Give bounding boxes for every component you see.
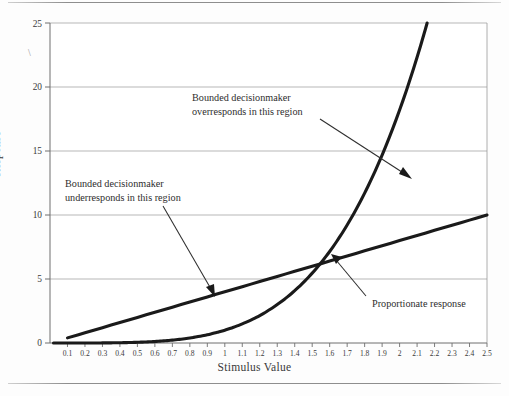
y-axis-ticks	[45, 23, 50, 343]
x-tick-label: 1.7	[342, 349, 352, 358]
annotation-overresponds-line1: Bounded decisionmaker	[192, 92, 291, 103]
x-tick-label: 0.2	[80, 349, 90, 358]
x-tick-label: 1.5	[307, 349, 317, 358]
annotation-underresponds-line2: underresponds in this region	[65, 192, 181, 203]
annotation-underresponds-line1: Bounded decisionmaker	[65, 178, 164, 189]
x-tick-label: 1.9	[377, 349, 387, 358]
y-axis-title: Response	[0, 114, 2, 194]
x-axis-title: Stimulus Value	[0, 361, 509, 373]
x-tick-label: 2.1	[412, 349, 422, 358]
annotation-overresponds-line2: overresponds in this region	[192, 106, 303, 117]
x-tick-label: 2.2	[430, 349, 440, 358]
scan-artifact-mark: \	[28, 47, 31, 58]
x-tick-label: 2	[398, 349, 402, 358]
x-tick-label: 0.8	[185, 349, 195, 358]
y-tick-label: 20	[33, 82, 43, 92]
x-tick-label: 2.3	[447, 349, 457, 358]
y-tick-label: 15	[33, 146, 43, 156]
x-tick-labels: 0.10.20.30.40.50.60.70.80.911.11.21.31.4…	[63, 349, 492, 358]
x-tick-label: 0.4	[115, 349, 125, 358]
x-tick-label: 1.8	[360, 349, 370, 358]
x-tick-label: 2.5	[482, 349, 492, 358]
x-tick-label: 0.3	[98, 349, 108, 358]
x-tick-label: 1.1	[238, 349, 248, 358]
figure-page: 0 5 10 15 20 25 0.10.20.30.40.50.60.70.8…	[0, 0, 509, 396]
chart-svg: 0 5 10 15 20 25 0.10.20.30.40.50.60.70.8…	[0, 0, 509, 396]
x-tick-label: 2.4	[465, 349, 475, 358]
x-tick-label: 0.1	[63, 349, 73, 358]
y-tick-labels: 0 5 10 15 20 25	[33, 19, 43, 348]
y-tick-label: 10	[33, 210, 43, 220]
y-tick-label: 5	[37, 274, 42, 284]
x-tick-label: 1.2	[255, 349, 265, 358]
x-tick-label: 1.3	[272, 349, 282, 358]
chart-figure: 0 5 10 15 20 25 0.10.20.30.40.50.60.70.8…	[0, 0, 509, 396]
y-tick-label: 25	[33, 19, 43, 29]
x-tick-label: 1.4	[290, 349, 300, 358]
x-tick-label: 1.6	[325, 349, 335, 358]
x-tick-label: 0.5	[133, 349, 143, 358]
x-tick-label: 1	[223, 349, 227, 358]
x-tick-label: 0.7	[168, 349, 178, 358]
x-tick-label: 0.9	[203, 349, 213, 358]
y-tick-label: 0	[37, 338, 42, 348]
x-tick-label: 0.6	[150, 349, 160, 358]
annotation-proportionate-label: Proportionate response	[372, 298, 466, 309]
